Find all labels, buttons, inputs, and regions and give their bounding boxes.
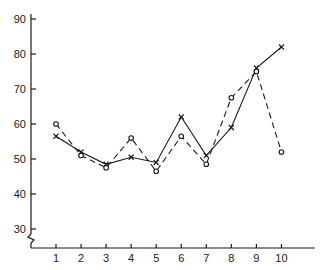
cross-marker-icon [179,115,184,120]
plot-area [54,45,284,174]
x-ticks: 12345678910 [53,244,288,264]
y-tick-label: 80 [14,48,26,60]
x-tick-label: 2 [78,252,84,264]
y-tick-label: 70 [14,83,26,95]
x-tick-label: 5 [153,252,159,264]
x-tick-label: 8 [228,252,234,264]
x-tick-label: 1 [53,252,59,264]
cross-marker-icon [204,153,209,158]
x-tick-label: 9 [253,252,259,264]
circle-marker-icon [154,169,159,174]
circle-marker-icon [279,150,284,155]
cross-marker-icon [229,125,234,130]
axis-break-icon [28,234,34,248]
y-ticks: 30405060708090 [14,13,36,235]
circle-marker-icon [79,153,84,158]
cross-marker-icon [279,45,284,50]
y-tick-label: 60 [14,118,26,130]
circle-marker-icon [179,134,184,139]
circle-marker-icon [54,122,59,127]
x-tick-label: 4 [128,252,134,264]
series-line [56,47,282,164]
x-tick-label: 6 [178,252,184,264]
x-tick-label: 3 [103,252,109,264]
circle-marker-icon [229,95,234,100]
y-tick-label: 30 [14,223,26,235]
series-solid-cross [54,45,284,167]
y-tick-label: 40 [14,188,26,200]
x-axis: 12345678910 [31,244,315,264]
y-axis: 30405060708090 [14,13,36,248]
circle-marker-icon [204,162,209,167]
circle-marker-icon [104,165,109,170]
line-chart: 30405060708090 12345678910 [0,0,325,270]
x-tick-label: 10 [275,252,287,264]
y-tick-label: 90 [14,13,26,25]
y-tick-label: 50 [14,153,26,165]
cross-marker-icon [54,134,59,139]
circle-marker-icon [129,136,134,141]
circle-marker-icon [254,69,259,74]
x-tick-label: 7 [203,252,209,264]
